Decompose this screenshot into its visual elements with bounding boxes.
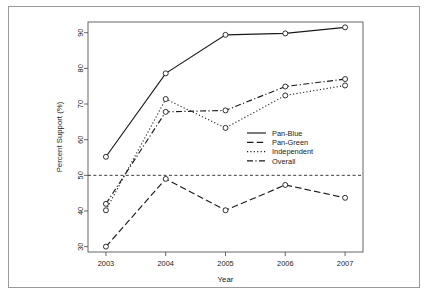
data-point	[223, 125, 228, 130]
series-line	[106, 79, 345, 204]
data-point	[103, 208, 108, 213]
data-point	[343, 77, 348, 82]
data-point	[163, 109, 168, 114]
data-point	[283, 84, 288, 89]
data-point	[103, 244, 108, 249]
data-point	[343, 25, 348, 30]
data-point	[163, 71, 168, 76]
data-point	[223, 32, 228, 37]
data-point	[283, 93, 288, 98]
y-tick-label: 40	[76, 207, 85, 215]
x-tick-label: 2007	[337, 259, 353, 268]
label-layer: 3040506070809020032004200520062007YearPe…	[55, 29, 353, 284]
series-overall	[103, 77, 347, 207]
data-point	[103, 154, 108, 159]
y-axis-title: Percent Support (%)	[55, 101, 64, 172]
chart-svg: 3040506070809020032004200520062007YearPe…	[0, 0, 430, 297]
plot-box	[88, 22, 363, 252]
data-point	[283, 31, 288, 36]
legend-item-independent[interactable]: Independent	[247, 147, 313, 156]
series-pan-blue	[103, 25, 347, 159]
x-tick-label: 2003	[98, 259, 114, 268]
y-tick-label: 50	[76, 171, 85, 179]
legend-label: Independent	[272, 147, 313, 156]
y-tick-label: 80	[76, 64, 85, 72]
data-point	[223, 208, 228, 213]
y-tick-label: 90	[76, 29, 85, 37]
data-point	[343, 83, 348, 88]
legend-label: Pan-Green	[272, 138, 308, 147]
y-tick-label: 70	[76, 100, 85, 108]
legend-label: Pan-Blue	[272, 129, 302, 138]
data-point	[163, 176, 168, 181]
legend-item-pan-green[interactable]: Pan-Green	[247, 138, 308, 147]
axis-layer	[84, 22, 363, 256]
x-tick-label: 2006	[277, 259, 293, 268]
y-tick-label: 30	[76, 243, 85, 251]
y-tick-label: 60	[76, 136, 85, 144]
series-line	[106, 27, 345, 156]
legend-label: Overall	[272, 157, 296, 166]
series-pan-green	[103, 176, 347, 249]
x-tick-label: 2005	[217, 259, 233, 268]
x-axis-title: Year	[218, 275, 234, 284]
legend-layer: Pan-BluePan-GreenIndependentOverall	[247, 129, 313, 166]
series-layer	[103, 25, 347, 249]
data-point	[343, 195, 348, 200]
data-point	[283, 182, 288, 187]
legend-item-overall[interactable]: Overall	[247, 157, 296, 166]
chart-figure: 3040506070809020032004200520062007YearPe…	[0, 0, 430, 297]
data-point	[223, 108, 228, 113]
data-point	[163, 97, 168, 102]
x-tick-label: 2004	[157, 259, 173, 268]
legend-item-pan-blue[interactable]: Pan-Blue	[247, 129, 302, 138]
data-point	[103, 201, 108, 206]
